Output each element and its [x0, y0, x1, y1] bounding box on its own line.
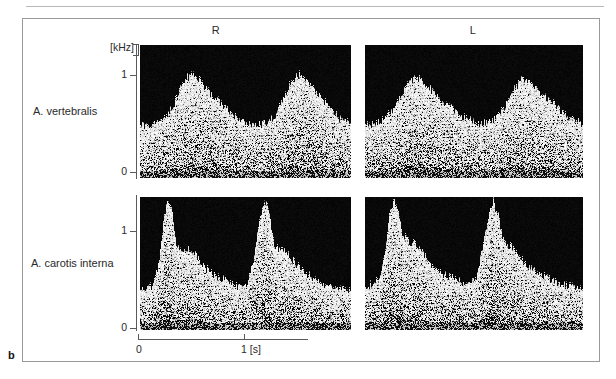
- x-axis-spine: [138, 339, 308, 340]
- spectrogram-canvas: [140, 45, 351, 178]
- x-axis-tick-1: [244, 334, 245, 340]
- column-header-right: R: [196, 24, 236, 36]
- x-axis-tick-label-0: 0: [136, 343, 142, 355]
- top-divider-rule: [26, 6, 604, 7]
- spectrogram-canvas: [365, 197, 583, 330]
- x-axis-tick-0: [138, 334, 139, 340]
- x-axis-tick-label-1: 1 [s]: [241, 343, 261, 355]
- column-header-left: L: [453, 24, 493, 36]
- figure-part-letter: b: [8, 349, 15, 361]
- y-axis-tick-0: [130, 328, 137, 329]
- y-axis-tick-label-1: 1: [121, 69, 127, 80]
- y-axis-top-row: [kHz] 1 0: [100, 41, 140, 181]
- spectrogram-vertebralis-left: [365, 45, 583, 178]
- row-label-vertebralis: A. vertebralis: [33, 105, 97, 117]
- spectrogram-carotis-interna-left: [365, 197, 583, 330]
- y-axis-tick-1: [130, 231, 137, 232]
- y-axis-spine: [136, 195, 137, 331]
- x-axis: 0 1 [s]: [136, 334, 311, 360]
- spectrogram-canvas: [365, 45, 583, 178]
- spectrogram-carotis-interna-right: [140, 197, 351, 330]
- y-axis-spine: [136, 45, 137, 179]
- y-axis-tick-label-1: 1: [121, 225, 127, 236]
- y-axis-tick-1: [130, 75, 137, 76]
- spectrogram-canvas: [140, 197, 351, 330]
- doppler-spectra-figure: R L A. vertebralis A. carotis interna [k…: [0, 0, 616, 379]
- spectrogram-vertebralis-right: [140, 45, 351, 178]
- y-axis-tick-label-0: 0: [121, 322, 127, 333]
- y-axis-unit-label: [kHz]: [110, 41, 134, 53]
- y-axis-tick-0: [130, 172, 137, 173]
- y-axis-tick-label-0: 0: [121, 166, 127, 177]
- y-axis-bottom-row: 1 0: [100, 195, 140, 333]
